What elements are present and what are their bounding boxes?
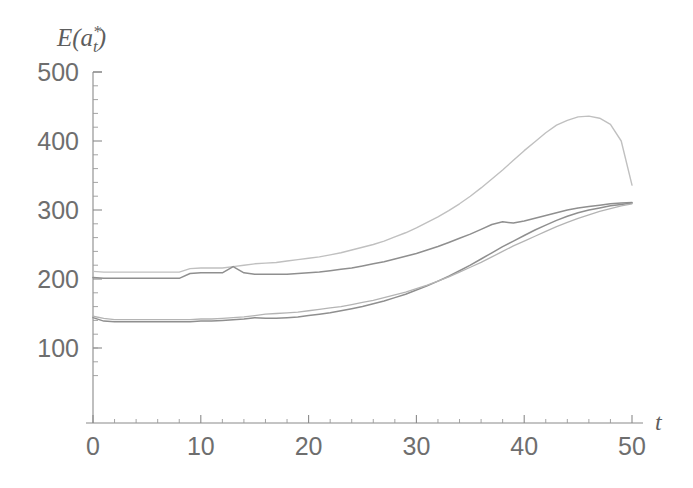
y-tick-label: 400	[37, 127, 79, 155]
y-tick-label: 300	[37, 196, 79, 224]
y-axis-label: E(a*t)	[56, 23, 106, 56]
line-chart-plot: 10020030040050001020304050 t E(a*t)	[0, 0, 693, 488]
series-line-lower-light	[93, 204, 632, 320]
chart-figure: 10020030040050001020304050 t E(a*t)	[0, 0, 693, 488]
tick-labels: 10020030040050001020304050	[37, 58, 646, 460]
series-line-lower-dark	[93, 203, 632, 322]
x-tick-label: 10	[187, 432, 215, 460]
series-line-upper-light	[93, 116, 632, 272]
series-line-upper-dark	[93, 202, 632, 278]
x-tick-label: 30	[402, 432, 430, 460]
y-axis	[93, 72, 102, 423]
series-layer	[93, 116, 632, 322]
y-tick-label: 200	[37, 265, 79, 293]
y-axis-label-base: E(a	[56, 24, 93, 52]
y-tick-label: 100	[37, 334, 79, 362]
x-axis-label: t	[655, 409, 663, 435]
x-tick-label: 0	[86, 432, 100, 460]
x-tick-label: 40	[510, 432, 538, 460]
y-axis-label-close: )	[96, 24, 106, 52]
x-tick-label: 20	[295, 432, 323, 460]
x-tick-label: 50	[618, 432, 646, 460]
x-axis	[86, 415, 643, 423]
y-tick-label: 500	[37, 58, 79, 86]
